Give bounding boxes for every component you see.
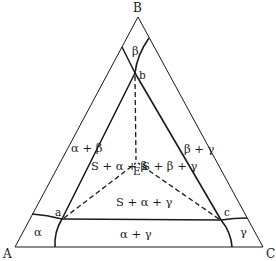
ternary-phase-diagram: B A C b a c E β α γ α + β β + γ α + γ S … [0, 0, 276, 261]
region-alpha: α [34, 225, 42, 239]
region-alpha-beta: α + β [71, 141, 103, 155]
vertex-label-A: A [2, 247, 12, 261]
gamma-boundary-top [221, 218, 247, 220]
vertex-label-B: B [133, 1, 142, 15]
point-label-b: b [139, 69, 146, 81]
gamma-boundary-curve [221, 220, 232, 247]
alpha-boundary-curve [55, 219, 62, 247]
point-label-c: c [224, 206, 230, 218]
tie-line-a-c [62, 219, 221, 220]
region-s-beta-gamma: S + β + γ [142, 159, 197, 173]
region-gamma: γ [240, 225, 247, 239]
region-s-alpha-beta: S + α + β [91, 159, 148, 173]
dashed-b-E [135, 76, 136, 160]
region-beta: β [132, 44, 139, 58]
region-beta-gamma: β + γ [184, 142, 215, 156]
region-s-alpha-gamma: S + α + γ [116, 195, 173, 209]
region-alpha-gamma: α + γ [120, 227, 152, 241]
point-label-a: a [55, 206, 61, 218]
vertex-label-C: C [266, 247, 275, 261]
